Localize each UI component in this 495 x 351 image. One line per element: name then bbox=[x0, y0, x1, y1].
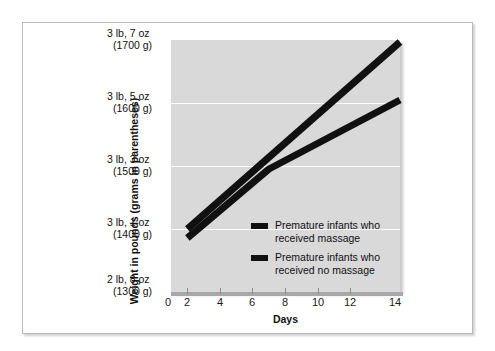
y-tick-grams: (1300 g) bbox=[107, 285, 169, 297]
y-tick-pounds: 3 lb, 7 oz bbox=[107, 27, 169, 39]
legend-swatch-icon bbox=[251, 223, 268, 229]
x-tick-label: 4 bbox=[217, 296, 223, 308]
x-tick-mark bbox=[318, 288, 319, 294]
x-tick-label: 0 bbox=[165, 296, 171, 308]
y-tick-pounds: 3 lb, 1 oz bbox=[107, 216, 169, 228]
x-axis-title: Days bbox=[171, 313, 400, 325]
x-tick-mark bbox=[220, 288, 221, 294]
y-tick-label: 2 lb, 8 oz (1300 g) bbox=[107, 273, 169, 297]
x-tick-mark bbox=[285, 288, 286, 294]
x-tick-label: 14 bbox=[389, 296, 401, 308]
plot-area: Premature infants who received massage P… bbox=[171, 40, 400, 292]
x-tick-mark bbox=[252, 288, 253, 294]
x-tick-label: 10 bbox=[312, 296, 324, 308]
y-tick-grams: (1700 g) bbox=[107, 39, 169, 51]
x-tick-label: 8 bbox=[282, 296, 288, 308]
legend: Premature infants who received massage P… bbox=[251, 219, 380, 283]
x-tick-label: 12 bbox=[344, 296, 356, 308]
series-line-massage bbox=[187, 42, 400, 229]
y-tick-grams: (1600 g) bbox=[107, 102, 169, 114]
y-tick-pounds: 3 lb, 5 oz bbox=[107, 90, 169, 102]
y-axis-tick-labels: 3 lb, 7 oz (1700 g) 3 lb, 5 oz (1600 g) … bbox=[107, 0, 169, 351]
y-tick-label: 3 lb, 1 oz (1400 g) bbox=[107, 216, 169, 240]
legend-label: Premature infants who received massage bbox=[275, 219, 380, 245]
y-tick-label: 3 lb, 3 oz (1500 g) bbox=[107, 153, 169, 177]
legend-swatch-icon bbox=[251, 255, 268, 261]
figure-container: Weight in pounds (grams in parentheses) … bbox=[0, 0, 495, 351]
x-tick-mark bbox=[350, 288, 351, 294]
y-tick-pounds: 3 lb, 3 oz bbox=[107, 153, 169, 165]
x-tick-label: 6 bbox=[249, 296, 255, 308]
legend-label: Premature infants who received no massag… bbox=[275, 251, 380, 277]
y-tick-label: 3 lb, 5 oz (1600 g) bbox=[107, 90, 169, 114]
y-tick-pounds: 2 lb, 8 oz bbox=[107, 273, 169, 285]
x-tick-label: 2 bbox=[184, 296, 190, 308]
legend-item-no-massage: Premature infants who received no massag… bbox=[251, 251, 380, 277]
legend-item-massage: Premature infants who received massage bbox=[251, 219, 380, 245]
series-line-no-massage bbox=[187, 100, 400, 238]
y-tick-grams: (1500 g) bbox=[107, 165, 169, 177]
y-tick-grams: (1400 g) bbox=[107, 228, 169, 240]
y-tick-label: 3 lb, 7 oz (1700 g) bbox=[107, 27, 169, 51]
x-tick-mark bbox=[187, 288, 188, 294]
